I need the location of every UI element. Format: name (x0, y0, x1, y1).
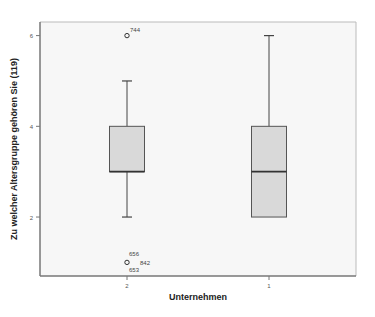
box-2 (110, 126, 145, 171)
x-tick-label: 2 (125, 283, 129, 289)
y-tick-label: 4 (30, 124, 34, 130)
y-tick-label: 6 (30, 33, 34, 39)
outlier-label: 656 (129, 251, 140, 257)
y-axis-label-text: Zu welcher Altersgruppe gehören Sie (119… (9, 58, 19, 240)
x-tick-label: 1 (267, 283, 271, 289)
outlier-label: 744 (130, 27, 141, 33)
y-axis-label: Zu welcher Altersgruppe gehören Sie (119… (4, 22, 24, 276)
x-axis-label: Unternehmen (40, 292, 356, 302)
plot-area (40, 22, 356, 276)
outlier-label: 842 (140, 260, 151, 266)
outlier-label: 653 (129, 267, 140, 273)
boxplot-chart: 24626568426537441 (0, 0, 375, 317)
y-tick-label: 2 (30, 215, 34, 221)
